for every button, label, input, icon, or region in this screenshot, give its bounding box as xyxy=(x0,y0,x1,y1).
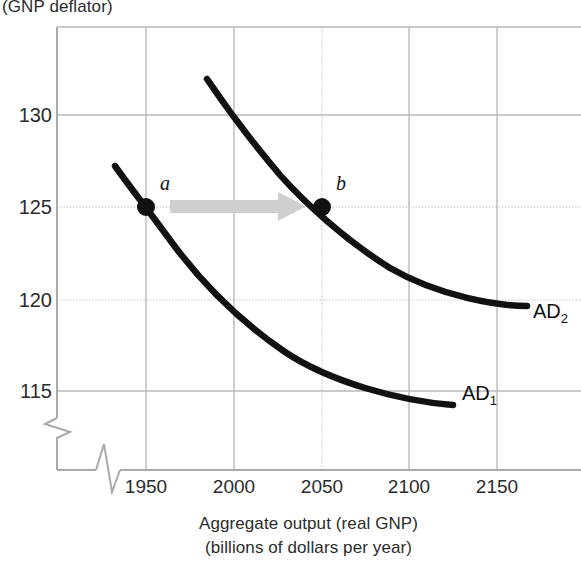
shift-arrow xyxy=(170,192,306,221)
x-tick-label-2150: 2150 xyxy=(462,476,532,498)
x-tick-label-2100: 2100 xyxy=(374,476,444,498)
curve-ad2 xyxy=(207,79,527,306)
point-b-marker xyxy=(313,198,331,216)
x-tick-label-2000: 2000 xyxy=(199,476,269,498)
point-b-label: b xyxy=(336,172,346,195)
x-tick-label-2050: 2050 xyxy=(287,476,357,498)
series-label-ad1-sub: 1 xyxy=(490,393,497,408)
y-axis-break-icon xyxy=(45,418,70,470)
chart-figure: (GNP deflator) 130 125 120 115 xyxy=(0,0,581,568)
point-a-marker xyxy=(137,198,155,216)
x-axis-label-line2: (billions of dollars per year) xyxy=(0,538,581,558)
axis-lines xyxy=(45,27,581,492)
series-label-ad1: AD1 xyxy=(462,382,497,408)
point-a-label: a xyxy=(160,172,170,195)
series-label-ad2-text: AD xyxy=(533,300,561,322)
series-label-ad2: AD2 xyxy=(533,300,568,326)
x-tick-label-1950: 1950 xyxy=(111,476,181,498)
grid-lines xyxy=(57,27,581,470)
series-label-ad2-sub: 2 xyxy=(561,311,568,326)
x-axis-label-line1: Aggregate output (real GNP) xyxy=(0,514,581,534)
series-label-ad1-text: AD xyxy=(462,382,490,404)
